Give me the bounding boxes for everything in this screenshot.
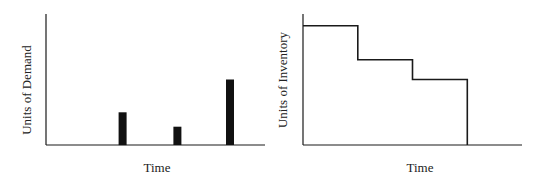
inventory-x-label: Time <box>407 160 434 175</box>
inventory-chart: Time Units of Inventory <box>275 14 522 175</box>
demand-x-label: Time <box>144 160 171 175</box>
inventory-y-label: Units of Inventory <box>275 31 290 128</box>
demand-bar <box>226 80 234 146</box>
inventory-step-line <box>303 26 467 145</box>
demand-chart: Time Units of Demand <box>19 14 265 175</box>
demand-y-label: Units of Demand <box>19 45 34 135</box>
demand-bar <box>119 112 127 145</box>
demand-bars <box>119 80 234 146</box>
demand-bar <box>173 127 181 145</box>
figure: Time Units of Demand Time Units of Inven… <box>0 0 538 184</box>
